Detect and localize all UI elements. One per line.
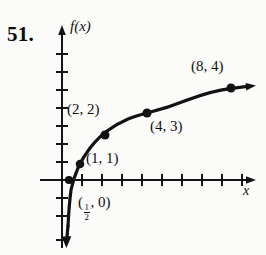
data-point-half-0	[65, 176, 73, 184]
y-axis-label: f(x)	[70, 18, 91, 35]
data-point-8-4	[227, 84, 236, 93]
graph-canvas	[0, 0, 266, 255]
point-label-half-0: (12, 0)	[78, 194, 111, 222]
fraction-numerator: 1	[84, 203, 91, 212]
label-suffix: , 0)	[91, 194, 111, 210]
curve-down-arrowhead	[62, 236, 72, 248]
data-point-2-2	[101, 131, 110, 140]
paren-open: (	[78, 194, 83, 210]
curve-right-arrowhead	[246, 83, 257, 90]
y-axis-arrowhead	[58, 25, 66, 35]
point-label-8-4: (8, 4)	[191, 58, 224, 75]
data-point-4-3	[143, 109, 152, 118]
figure-container: 51.	[0, 0, 266, 255]
point-label-2-2: (2, 2)	[67, 101, 100, 118]
fraction-denominator: 2	[84, 212, 91, 222]
point-label-1-1: (1, 1)	[86, 150, 119, 167]
point-label-4-3: (4, 3)	[150, 118, 183, 135]
curve-left-tail	[67, 226, 68, 238]
x-axis-label: x	[243, 183, 249, 199]
data-point-1-1	[76, 160, 85, 169]
fraction-one-half: 12	[84, 203, 91, 222]
